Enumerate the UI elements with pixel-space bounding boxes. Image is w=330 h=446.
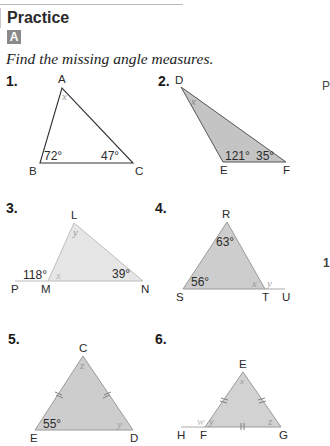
vertex-f: F: [283, 164, 290, 176]
vertex-r: R: [222, 208, 230, 220]
triangle-ced: C E D z 55° y: [30, 342, 138, 444]
angle-b-value: 72°: [44, 149, 62, 163]
vertex-m: M: [41, 283, 51, 295]
angle-rtu-var: y: [266, 277, 272, 289]
vertex-l: L: [71, 209, 78, 221]
angle-e-var: x: [239, 376, 244, 386]
vertex-t: T: [262, 291, 269, 303]
angle-d-var: y: [116, 418, 122, 430]
angle-g-var: z: [267, 415, 273, 427]
triangle-efg: E H F G x w y z: [177, 358, 288, 441]
angle-pml-value: 118°: [23, 268, 47, 282]
angle-hfe-var: w: [197, 415, 205, 427]
vertex-e: E: [30, 432, 38, 444]
triangle-abc: A B C x 72° 47°: [29, 73, 143, 177]
angle-r-value: 63°: [216, 235, 234, 249]
triangle-rst: R S T U 63° 56° x y: [176, 208, 290, 303]
triangle-def: D E F x 121° 35°: [175, 74, 290, 176]
vertex-f: F: [200, 429, 207, 441]
vertex-p: P: [11, 283, 19, 295]
angle-f-var: y: [208, 415, 214, 427]
vertex-d: D: [130, 432, 138, 444]
angle-m-var: x: [55, 269, 61, 281]
angle-e-value: 121°: [225, 149, 250, 163]
vertex-d: D: [175, 74, 183, 86]
angle-t-var: x: [251, 277, 257, 289]
vertex-e: E: [220, 164, 228, 176]
angle-l-var: y: [72, 226, 78, 238]
angle-n-value: 39°: [112, 267, 130, 281]
angle-d-var: x: [190, 95, 196, 107]
angle-c-value: 47°: [101, 149, 119, 163]
angle-e-value: 55°: [43, 417, 61, 431]
vertex-g: G: [279, 429, 288, 441]
vertex-b: B: [29, 165, 37, 177]
angle-c-var: z: [79, 359, 85, 371]
angle-s-value: 56°: [191, 275, 209, 289]
angle-a-var: x: [61, 90, 67, 102]
vertex-a: A: [58, 73, 66, 85]
vertex-c: C: [135, 165, 143, 177]
vertex-e: E: [239, 358, 247, 370]
vertex-n: N: [141, 283, 149, 295]
vertex-u: U: [282, 291, 290, 303]
vertex-s: S: [176, 291, 184, 303]
triangle-lmn: L P M N y 118° x 39°: [11, 209, 149, 295]
vertex-c: C: [79, 342, 87, 354]
vertex-h: H: [177, 429, 185, 441]
angle-f-value: 35°: [256, 149, 274, 163]
